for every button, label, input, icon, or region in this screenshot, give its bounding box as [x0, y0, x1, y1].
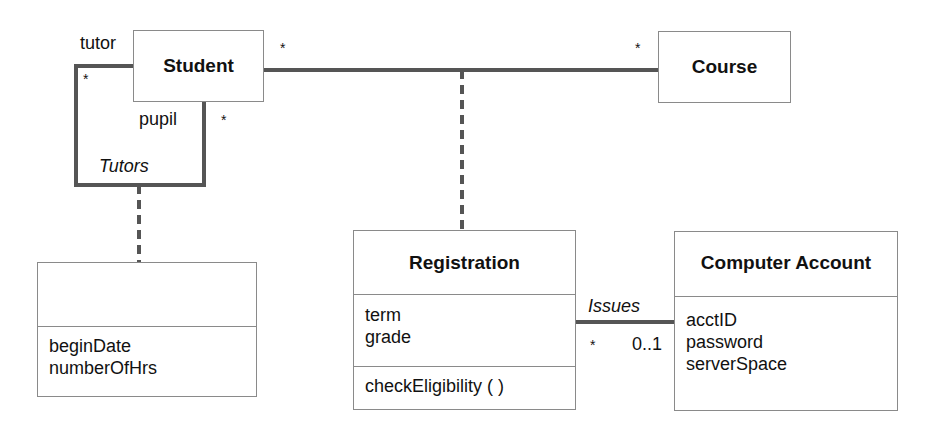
course-class[interactable]: Course	[658, 31, 791, 103]
operation: checkEligibility ( )	[365, 375, 575, 397]
registration-class[interactable]: Registration term grade checkEligibility…	[353, 230, 576, 410]
attribute: password	[686, 331, 897, 353]
mult-student-course-student: *	[280, 40, 285, 56]
registration-operations-compartment: checkEligibility ( )	[354, 366, 575, 397]
tutors-attributes-compartment: beginDate numberOfHrs	[38, 326, 256, 379]
tutors-association-name: Tutors	[99, 156, 149, 177]
attribute: acctID	[686, 309, 897, 331]
mult-issues-account: 0..1	[632, 334, 662, 355]
tutors-assoc-class[interactable]: beginDate numberOfHrs	[37, 262, 257, 397]
computer-account-class-name: Computer Account	[675, 252, 897, 274]
computer-account-attributes-compartment: acctID password serverSpace	[675, 296, 897, 375]
attribute: serverSpace	[686, 353, 897, 375]
student-class-name: Student	[134, 55, 263, 77]
role-tutor-label: tutor	[80, 33, 116, 54]
attribute: grade	[365, 326, 575, 348]
role-pupil-label: pupil	[139, 109, 177, 130]
course-class-name: Course	[659, 56, 790, 78]
attribute: numberOfHrs	[49, 357, 256, 379]
computer-account-class[interactable]: Computer Account acctID password serverS…	[674, 231, 898, 411]
mult-student-course-course: *	[635, 40, 640, 56]
attribute: beginDate	[49, 335, 256, 357]
registration-attributes-compartment: term grade	[354, 294, 575, 366]
registration-class-name: Registration	[354, 252, 575, 274]
issues-association-name: Issues	[588, 296, 640, 317]
student-class[interactable]: Student	[133, 30, 264, 102]
mult-issues-registration: *	[590, 337, 595, 353]
mult-tutor: *	[83, 71, 88, 87]
mult-pupil: *	[221, 112, 226, 128]
attribute: term	[365, 304, 575, 326]
